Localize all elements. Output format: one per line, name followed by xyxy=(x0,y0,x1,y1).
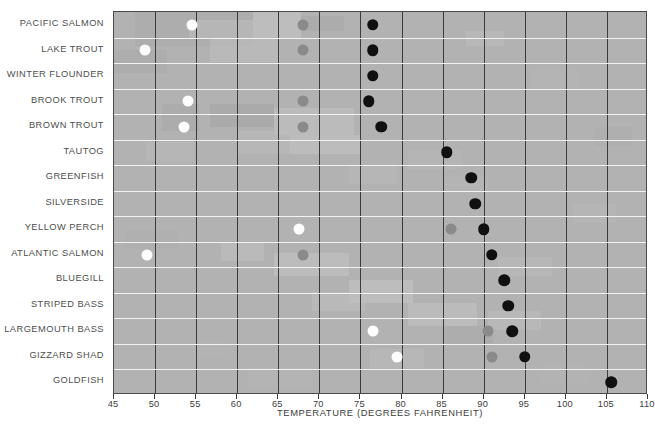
vertical-gridline xyxy=(443,12,444,393)
paper-texture-blotch xyxy=(189,20,253,39)
paper-texture-blotch xyxy=(466,31,503,46)
paper-texture-blotch xyxy=(210,39,279,62)
row-separator xyxy=(114,89,646,90)
gray-circle-marker xyxy=(486,351,497,362)
vertical-gridline xyxy=(278,12,279,393)
row-separator xyxy=(114,369,646,370)
vertical-gridline xyxy=(360,12,361,393)
filled-circle-marker xyxy=(367,70,379,82)
paper-texture-blotch xyxy=(125,230,178,249)
row-separator xyxy=(114,38,646,39)
paper-texture-blotch xyxy=(531,69,579,88)
filled-circle-marker xyxy=(363,96,375,108)
temperature-tolerance-chart: PACIFIC SALMONLAKE TROUTWINTER FLOUNDERB… xyxy=(0,0,655,426)
filled-circle-marker xyxy=(466,172,478,184)
row-separator xyxy=(114,191,646,192)
species-label: GIZZARD SHAD xyxy=(29,343,104,369)
paper-texture-blotch xyxy=(349,280,413,303)
species-label: ATLANTIC SALMON xyxy=(11,241,104,267)
plot-area xyxy=(113,11,647,394)
species-label: WINTER FLOUNDER xyxy=(7,62,104,88)
row-separator xyxy=(114,165,646,166)
paper-texture-blotch xyxy=(274,108,354,135)
open-circle-marker xyxy=(293,224,304,235)
paper-texture-blotch xyxy=(274,253,349,276)
filled-circle-marker xyxy=(441,147,453,159)
gray-circle-marker xyxy=(482,326,493,337)
species-label: PACIFIC SALMON xyxy=(20,11,104,37)
filled-circle-marker xyxy=(470,198,482,210)
gray-circle-marker xyxy=(297,249,308,260)
gray-circle-marker xyxy=(445,224,456,235)
row-separator xyxy=(114,114,646,115)
vertical-gridline xyxy=(566,12,567,393)
filled-circle-marker xyxy=(498,274,510,286)
paper-texture-blotch xyxy=(573,204,616,223)
species-label: SILVERSIDE xyxy=(45,190,104,216)
vertical-gridline xyxy=(319,12,320,393)
filled-circle-marker xyxy=(478,223,490,235)
row-separator xyxy=(114,318,646,319)
open-circle-marker xyxy=(141,249,152,260)
species-label: YELLOW PERCH xyxy=(25,215,104,241)
open-circle-marker xyxy=(182,96,193,107)
open-circle-marker xyxy=(392,351,403,362)
row-separator xyxy=(114,242,646,243)
filled-circle-marker xyxy=(375,121,387,133)
paper-texture-blotch xyxy=(210,104,274,127)
vertical-gridline xyxy=(525,12,526,393)
species-label: LARGEMOUTH BASS xyxy=(4,317,104,343)
gray-circle-marker xyxy=(297,45,308,56)
filled-circle-marker xyxy=(507,325,519,337)
paper-texture-blotch xyxy=(253,12,301,39)
species-label: BROOK TROUT xyxy=(31,88,104,114)
row-separator xyxy=(114,293,646,294)
row-separator xyxy=(114,344,646,345)
paper-texture-blotch xyxy=(237,131,290,154)
species-label: GOLDFISH xyxy=(53,368,104,394)
open-circle-marker xyxy=(178,121,189,132)
filled-circle-marker xyxy=(367,45,379,57)
species-label: GREENFISH xyxy=(46,164,104,190)
open-circle-marker xyxy=(187,19,198,30)
open-circle-marker xyxy=(140,45,151,56)
filled-circle-marker xyxy=(519,351,531,363)
species-label-column: PACIFIC SALMONLAKE TROUTWINTER FLOUNDERB… xyxy=(0,11,110,394)
paper-texture-blotch xyxy=(146,142,194,161)
row-separator xyxy=(114,267,646,268)
paper-texture-blotch xyxy=(248,368,312,387)
open-circle-marker xyxy=(367,326,378,337)
filled-circle-marker xyxy=(486,249,498,261)
gray-circle-marker xyxy=(297,96,308,107)
species-label: BROWN TROUT xyxy=(29,113,104,139)
vertical-gridline xyxy=(607,12,608,393)
species-label: TAUTOG xyxy=(63,139,104,165)
species-label: BLUEGILL xyxy=(56,266,104,292)
paper-texture-blotch xyxy=(349,165,397,184)
gray-circle-marker xyxy=(297,19,308,30)
paper-texture-blotch xyxy=(221,242,264,261)
row-separator xyxy=(114,63,646,64)
row-separator xyxy=(114,140,646,141)
species-label: LAKE TROUT xyxy=(41,37,104,63)
vertical-gridline xyxy=(402,12,403,393)
species-label: STRIPED BASS xyxy=(31,292,104,318)
vertical-gridline xyxy=(155,12,156,393)
gray-circle-marker xyxy=(297,121,308,132)
x-axis-title: TEMPERATURE (DEGREES FAHRENHEIT) xyxy=(113,407,647,418)
filled-circle-marker xyxy=(605,376,617,388)
vertical-gridline xyxy=(196,12,197,393)
filled-circle-marker xyxy=(367,19,379,31)
filled-circle-marker xyxy=(503,300,515,312)
paper-texture-blotch xyxy=(290,135,359,154)
row-separator xyxy=(114,216,646,217)
paper-texture-blotch xyxy=(595,127,632,146)
vertical-gridline xyxy=(237,12,238,393)
